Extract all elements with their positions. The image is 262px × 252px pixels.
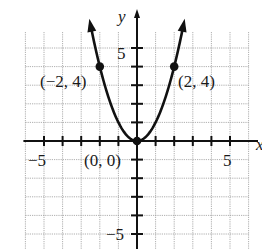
tick-label-x-pos5: 5 (223, 151, 232, 170)
y-axis-arrow-icon (134, 9, 140, 18)
tick-label-x-neg5: −5 (28, 151, 46, 170)
data-point (170, 62, 179, 71)
curve-arrow-icon (87, 19, 96, 33)
curve-arrow-icon (178, 19, 187, 33)
point-label-origin: (0, 0) (84, 151, 121, 170)
axes (23, 9, 258, 249)
point-label-neg2-4: (−2, 4) (40, 72, 86, 91)
y-axis-label: y (116, 7, 126, 26)
tick-label-y-neg5: −5 (106, 225, 124, 244)
point-label-2-4: (2, 4) (178, 72, 215, 91)
tick-label-y-pos5: 5 (117, 44, 126, 63)
data-point (96, 62, 105, 71)
data-point (133, 137, 142, 146)
parabola-graph: y x −5 5 5 −5 (−2, 4) (0, 0) (2, 4) (0, 0, 262, 252)
x-axis-label: x (255, 135, 262, 154)
